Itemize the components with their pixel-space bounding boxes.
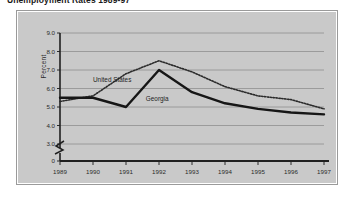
y-tick-label: 4.0 [46,122,55,129]
series-annotation-label: United States [93,76,131,83]
x-tick-label: 1994 [218,168,232,175]
axis-break-icon [55,141,64,154]
y-tick-label: 9.0 [46,29,55,36]
x-tick-label: 1995 [251,168,265,175]
chart-svg: 03.04.05.06.07.08.09.0 19891990199119921… [17,11,337,184]
x-tick-labels-group: 198919901991199219931994199519961997 [53,168,331,175]
x-tick-label: 1997 [317,168,331,175]
series-labels-group: United StatesGeorgia [93,76,169,103]
y-tick-labels-group: 03.04.05.06.07.08.09.0 [46,29,55,164]
x-tick-label: 1991 [119,168,133,175]
y-tick-label: 8.0 [46,48,55,55]
y-tick-label: 0 [52,157,56,164]
series-annotation-label: Georgia [146,95,169,103]
chart-card: Percent 03.04.05.06.07.08.09.0 198919901… [16,10,338,185]
gridlines-group [60,33,324,144]
series-line-united-states [60,61,324,109]
y-tick-label: 3.0 [46,140,55,147]
axis-break-zigzag-icon [55,141,64,154]
x-tick-label: 1996 [284,168,298,175]
y-tick-label: 5.0 [46,103,55,110]
unemployment-rates-figure: Unemployment Rates 1989-97 Percent 03.04… [0,0,351,203]
chart-title: Unemployment Rates 1989-97 [7,0,130,5]
axis-lines-group [60,33,329,161]
x-tick-label: 1990 [86,168,100,175]
x-tick-label: 1993 [185,168,199,175]
y-tick-label: 6.0 [46,85,55,92]
x-tick-label: 1989 [53,168,67,175]
plot-area: 03.04.05.06.07.08.09.0 19891990199119921… [17,11,337,184]
x-tick-label: 1992 [152,168,166,175]
y-tick-label: 7.0 [46,66,55,73]
series-lines-group [60,61,324,115]
